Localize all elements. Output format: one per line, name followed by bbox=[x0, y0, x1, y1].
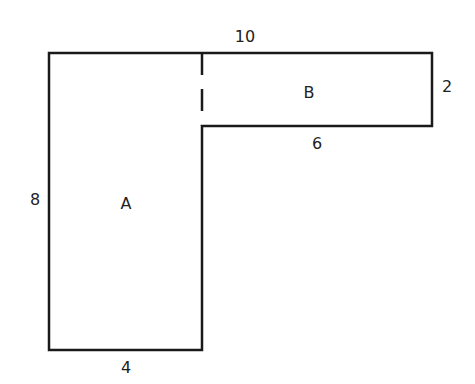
dimension-top: 10 bbox=[235, 29, 255, 45]
dimension-inner-bottom: 6 bbox=[312, 136, 322, 152]
region-a-label: A bbox=[121, 196, 132, 212]
dimension-left: 8 bbox=[30, 192, 40, 208]
shape-outline bbox=[49, 53, 432, 350]
dimension-bottom: 4 bbox=[121, 360, 131, 376]
composite-shape-figure bbox=[0, 0, 475, 384]
dimension-right: 2 bbox=[442, 79, 452, 95]
region-b-label: B bbox=[304, 85, 315, 101]
